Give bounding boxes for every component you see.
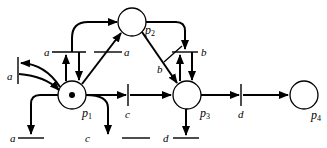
label-b-top: b xyxy=(201,46,207,58)
label-a-left: a xyxy=(7,70,13,82)
label-a-top-right: a xyxy=(124,46,130,58)
label-p2: p2 xyxy=(144,23,155,38)
label-d-bottom: d xyxy=(163,132,169,144)
label-c-bottom: c xyxy=(85,132,90,144)
label-a-bottom: a xyxy=(10,132,16,144)
place-p1 xyxy=(58,81,86,109)
label-p1: p1 xyxy=(81,106,92,121)
label-p3: p3 xyxy=(199,106,210,121)
label-c-mid: c xyxy=(125,108,130,120)
label-b-cross: b xyxy=(157,63,163,75)
place-p2 xyxy=(118,8,146,36)
place-p4 xyxy=(290,81,318,109)
place-p3 xyxy=(173,81,201,109)
label-p4: p4 xyxy=(310,108,321,123)
petri-net-diagram: a a a a c c b b d d p1 p2 p3 p4 xyxy=(0,0,327,148)
token xyxy=(69,92,75,98)
label-a-top-left: a xyxy=(44,46,50,58)
label-d-mid: d xyxy=(238,108,244,120)
